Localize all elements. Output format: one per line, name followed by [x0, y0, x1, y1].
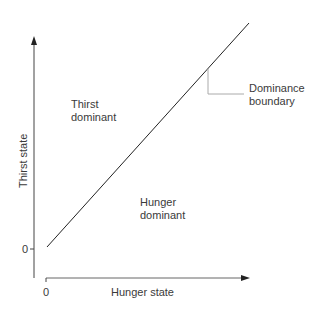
- x-zero-label: 0: [43, 286, 49, 299]
- hunger-dominant-label: Hunger dominant: [140, 196, 185, 222]
- hunger-dominant-line2: dominant: [140, 209, 185, 222]
- boundary-leader-line: [208, 69, 244, 94]
- thirst-dominant-line1: Thirst: [71, 98, 116, 111]
- dominance-boundary-label: Dominance boundary: [249, 82, 305, 108]
- y-axis-label: Thirst state: [17, 134, 29, 188]
- x-axis-arrow-icon: [241, 275, 250, 281]
- thirst-dominant-line2: dominant: [71, 111, 116, 124]
- dominance-boundary-line2: boundary: [249, 95, 305, 108]
- y-zero-label: 0: [22, 243, 28, 256]
- y-axis-arrow-icon: [31, 36, 37, 45]
- thirst-dominant-label: Thirst dominant: [71, 98, 116, 124]
- dominance-boundary-line1: Dominance: [249, 82, 305, 95]
- diagram-canvas: [0, 0, 314, 312]
- hunger-dominant-line1: Hunger: [140, 196, 185, 209]
- x-axis-label: Hunger state: [111, 286, 174, 299]
